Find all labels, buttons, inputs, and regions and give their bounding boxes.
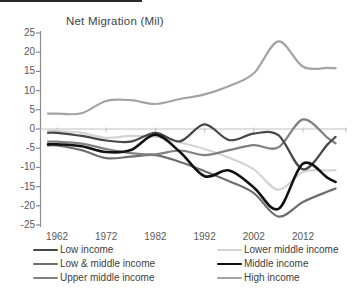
y-tick-label: -5 (7, 142, 35, 154)
y-tick-label: -15 (7, 181, 35, 193)
legend-label: High income (244, 272, 300, 284)
net-migration-chart: Net Migration (Mil) 2520151050-5-10-15-2… (0, 0, 359, 295)
legend-label: Middle income (244, 258, 308, 270)
legend-label: Low & middle income (60, 258, 155, 270)
y-tick-label: 0 (7, 123, 35, 135)
y-tick-label: -25 (7, 219, 35, 231)
series-line-high-income (48, 41, 336, 114)
legend-swatch-icon (33, 277, 58, 279)
x-tick-label: 1992 (188, 231, 222, 243)
legend-label: Upper middle income (60, 272, 155, 284)
legend-label: Lower middle income (244, 244, 339, 256)
x-tick-label: 1962 (40, 231, 74, 243)
y-tick-label: -20 (7, 200, 35, 212)
y-tick-label: 5 (7, 104, 35, 116)
legend-swatch-icon (33, 249, 58, 251)
legend-swatch-icon (217, 263, 242, 266)
y-tick-label: 10 (7, 85, 35, 97)
x-tick-label: 1972 (89, 231, 123, 243)
x-tick-label: 1982 (138, 231, 172, 243)
x-tick-label: 2002 (237, 231, 271, 243)
y-tick-label: -10 (7, 161, 35, 173)
x-tick-label: 2012 (286, 231, 320, 243)
y-tick-label: 20 (7, 46, 35, 58)
legend-label: Low income (60, 244, 113, 256)
legend-swatch-icon (217, 277, 242, 279)
legend-swatch-icon (217, 249, 242, 251)
y-tick-label: 25 (7, 27, 35, 39)
y-tick-label: 15 (7, 65, 35, 77)
legend-swatch-icon (33, 263, 58, 265)
